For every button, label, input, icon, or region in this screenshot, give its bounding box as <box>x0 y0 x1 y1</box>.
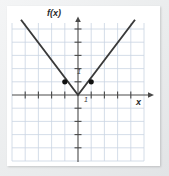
x-axis-tick-label-1: 1 <box>84 96 88 103</box>
plotted-point-left <box>62 79 67 84</box>
y-axis-tick-label-1: 1 <box>77 68 81 75</box>
y-axis-label: f(x) <box>47 9 61 18</box>
coordinate-plane-svg <box>7 6 160 166</box>
coordinate-plane <box>7 6 160 166</box>
x-axis-label: x <box>136 98 141 107</box>
graph-figure-screenshot: f(x) x 1 1 <box>0 0 169 176</box>
plot-background <box>7 6 160 166</box>
plotted-point-right <box>89 79 94 84</box>
